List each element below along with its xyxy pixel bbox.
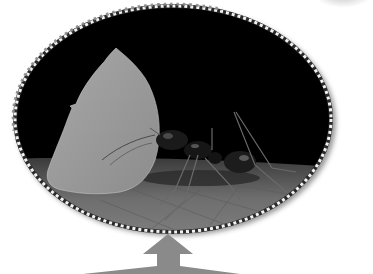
up-arrow-icon	[83, 234, 240, 274]
